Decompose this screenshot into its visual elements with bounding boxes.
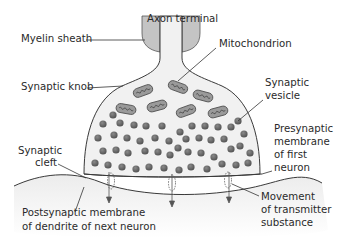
label-axon-terminal: Axon terminal [147, 13, 218, 24]
label-movement-transmitter-2: of transmitter [261, 204, 332, 215]
label-myelin-sheath: Myelin sheath [21, 33, 92, 44]
synapse-diagram: Axon terminal Myelin sheath Mitochondrio… [0, 0, 343, 247]
label-synaptic-knob: Synaptic knob [21, 81, 93, 92]
label-mitochondrion: Mitochondrion [219, 38, 292, 49]
label-postsynaptic-membrane: Postsynaptic membrane [22, 207, 145, 218]
label-synaptic-cleft-2: cleft [35, 157, 57, 168]
label-movement-transmitter: Movement [261, 191, 315, 202]
label-presynaptic-membrane-2: membrane [274, 136, 330, 147]
label-presynaptic-membrane-4: neuron [274, 162, 310, 173]
label-movement-transmitter-3: substance [261, 217, 313, 228]
label-synaptic-vesicle-2: vesicle [265, 90, 300, 101]
label-presynaptic-membrane-3: of first [274, 149, 307, 160]
label-synaptic-cleft: Synaptic [18, 145, 62, 156]
label-presynaptic-membrane: Presynaptic [274, 123, 333, 134]
leader-presynaptic [262, 171, 272, 174]
label-synaptic-vesicle: Synaptic [265, 77, 309, 88]
label-postsynaptic-membrane-2: of dendrite of next neuron [22, 221, 156, 232]
